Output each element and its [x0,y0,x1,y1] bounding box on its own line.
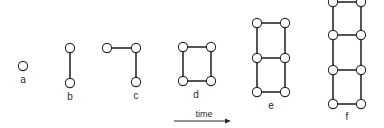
graph-node [356,30,365,39]
graph-node [252,53,261,62]
graph-node [252,87,261,96]
stage-label-c: c [134,90,139,101]
graph-node [178,42,187,51]
graph-node [131,77,140,86]
stage-label-a: a [20,74,26,85]
stage-label-b: b [67,91,73,102]
graph-node [356,65,365,74]
graph-node [206,76,215,85]
edges-layer [70,2,361,104]
graph-node [178,76,187,85]
graph-growth-diagram: abcdef time [0,0,384,128]
stage-label-f: f [346,111,349,122]
graph-node [65,43,74,52]
graph-node [328,65,337,74]
time-label: time [195,109,212,119]
graph-node [356,99,365,108]
graph-node [280,53,289,62]
graph-node [356,0,365,7]
graph-node [252,18,261,27]
stage-label-d: d [193,89,199,100]
graph-node [65,78,74,87]
graph-node [102,43,111,52]
graph-node [328,30,337,39]
arrow-right-icon [225,119,231,124]
time-axis: time [174,109,231,124]
graph-node [280,18,289,27]
graph-node [206,42,215,51]
stage-label-e: e [268,100,274,111]
graph-node [18,61,27,70]
graph-node [131,43,140,52]
graph-node [280,87,289,96]
graph-node [328,99,337,108]
graph-node [328,0,337,7]
